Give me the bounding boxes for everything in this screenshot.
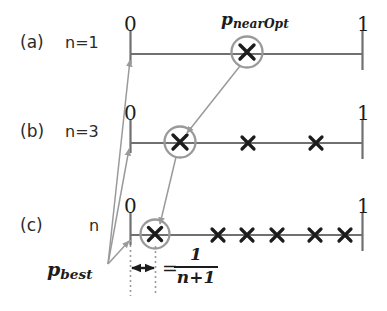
p-best-base: p <box>47 258 60 280</box>
row-n-label-c: n <box>89 218 99 234</box>
fraction-denominator: n+1 <box>174 269 218 287</box>
axis-end-label-c: 1 <box>357 196 370 216</box>
figure-canvas: (a) n=1 (b) n=3 (c) n 0 1 0 1 0 1 pnearO… <box>0 0 387 311</box>
axis-start-label-c: 0 <box>124 196 137 216</box>
fraction-numerator: 1 <box>174 246 218 264</box>
row-tag-c: (c) <box>20 217 43 234</box>
refinement-arrow-a-to-b <box>187 66 240 133</box>
row-n-label-b: n=3 <box>65 124 99 140</box>
axis-start-label-a: 0 <box>124 14 137 34</box>
row-n-label-a: n=1 <box>65 35 99 51</box>
axis-end-label-a: 1 <box>357 14 370 34</box>
p-best-subscript: best <box>60 266 92 282</box>
p-nearopt-label: pnearOpt <box>221 11 289 30</box>
sample-marks-row-a <box>232 37 263 68</box>
row-tag-a: (a) <box>20 34 44 51</box>
p-best-label: pbest <box>47 260 93 282</box>
refinement-arrow-group <box>160 66 240 224</box>
axis-start-label-b: 0 <box>124 103 137 123</box>
p-best-arrow-group <box>108 60 130 264</box>
highlighted-sample-a[interactable] <box>232 37 263 68</box>
sample-x-mark <box>240 45 254 59</box>
spacing-fraction: 1 n+1 <box>174 246 218 287</box>
axis-end-label-b: 1 <box>357 103 370 123</box>
row-tag-b: (b) <box>20 123 44 140</box>
p-nearopt-base: p <box>221 9 233 29</box>
refinement-arrow-b-to-c <box>160 157 176 224</box>
p-nearopt-subscript: nearOpt <box>233 17 289 31</box>
